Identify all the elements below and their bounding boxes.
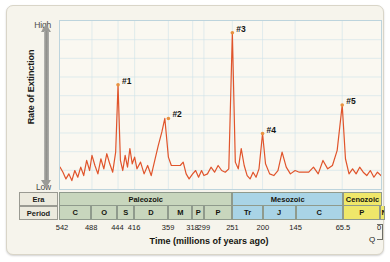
extinction-rate-line bbox=[60, 33, 381, 181]
era-cell-mesozoic: Mesozoic bbox=[232, 192, 343, 206]
x-tick-65.5: 65.5 bbox=[336, 223, 351, 232]
period-row: Period COSDMPPTrJCPN bbox=[19, 206, 382, 220]
peak-label-2: #2 bbox=[172, 109, 181, 119]
peak-marker-5 bbox=[340, 103, 344, 107]
y-axis: High Low Rate of Extinction bbox=[19, 20, 57, 190]
x-tick-200: 200 bbox=[257, 223, 270, 232]
peak-label-3: #3 bbox=[236, 24, 245, 34]
era-track: PaleozoicMesozoicCenozoic bbox=[59, 192, 382, 206]
peak-marker-1 bbox=[116, 83, 120, 87]
peak-label-4: #4 bbox=[267, 125, 276, 135]
x-tick-145: 145 bbox=[289, 223, 302, 232]
period-cell-11: N bbox=[380, 206, 385, 220]
period-cell-10: P bbox=[343, 206, 380, 220]
peak-marker-2 bbox=[167, 117, 171, 121]
arrow-head-down-icon bbox=[41, 180, 51, 188]
period-cell-3: D bbox=[134, 206, 168, 220]
x-tick-416: 416 bbox=[128, 223, 141, 232]
period-cell-0: C bbox=[59, 206, 91, 220]
extinction-rate-figure: High Low Rate of Extinction #1#2#3#4#5 E… bbox=[0, 0, 390, 262]
x-tick-251: 251 bbox=[226, 223, 239, 232]
x-axis-title: Time (millions of years ago) bbox=[59, 236, 359, 246]
quaternary-bracket bbox=[377, 224, 383, 240]
peak-label-1: #1 bbox=[122, 76, 131, 86]
era-row-label: Era bbox=[19, 192, 58, 206]
period-cell-5: P bbox=[192, 206, 203, 220]
quaternary-label: Q bbox=[369, 235, 375, 244]
figure-card: High Low Rate of Extinction #1#2#3#4#5 E… bbox=[6, 5, 384, 255]
x-tick-488: 488 bbox=[85, 223, 98, 232]
era-cell-paleozoic: Paleozoic bbox=[59, 192, 232, 206]
peak-marker-3 bbox=[231, 31, 235, 35]
x-tick-542: 542 bbox=[56, 223, 69, 232]
double-arrow-vertical-icon bbox=[41, 24, 51, 188]
peak-marker-4 bbox=[261, 132, 265, 136]
period-cell-6: P bbox=[204, 206, 233, 220]
period-cell-2: S bbox=[117, 206, 134, 220]
period-track: COSDMPPTrJCPN bbox=[59, 206, 382, 220]
extinction-line-chart bbox=[60, 21, 381, 189]
era-cell-cenozoic: Cenozoic bbox=[343, 192, 382, 206]
x-tick-299: 299 bbox=[198, 223, 211, 232]
period-cell-7: Tr bbox=[232, 206, 262, 220]
x-axis-tick-labels: 54248844441635931829925120014565.50 bbox=[59, 223, 382, 235]
era-row: Era PaleozoicMesozoicCenozoic bbox=[19, 192, 382, 206]
period-row-label: Period bbox=[19, 206, 58, 220]
period-cell-9: C bbox=[296, 206, 343, 220]
period-cell-1: O bbox=[91, 206, 117, 220]
period-cell-4: M bbox=[168, 206, 192, 220]
x-tick-359: 359 bbox=[162, 223, 175, 232]
x-tick-444: 444 bbox=[111, 223, 124, 232]
y-axis-title: Rate of Extinction bbox=[26, 27, 36, 147]
peak-label-5: #5 bbox=[346, 96, 355, 106]
plot-area: #1#2#3#4#5 bbox=[59, 20, 382, 190]
geologic-time-table: Era PaleozoicMesozoicCenozoic Period COS… bbox=[19, 192, 382, 222]
arrow-shaft bbox=[44, 31, 49, 181]
period-cell-8: J bbox=[263, 206, 296, 220]
